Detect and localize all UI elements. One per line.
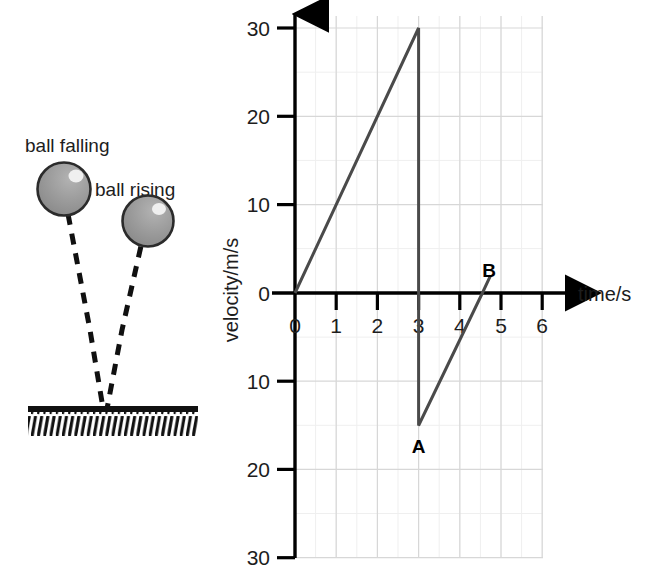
y-tick-label-30: 30 (247, 17, 270, 40)
x-tick-label-0: 0 (289, 314, 301, 337)
velocity-data-line (295, 28, 491, 426)
rising-ball (123, 196, 174, 247)
velocity-time-graph: 30 20 10 0 10 20 30 0 1 2 3 4 5 6 time/s… (220, 14, 631, 569)
ball-rising-label: ball rising (95, 179, 175, 200)
y-tick-label-neg-20: 20 (247, 458, 270, 481)
y-tick-label-20: 20 (247, 105, 270, 128)
annotation-label-a: A (412, 436, 426, 457)
figure-canvas: ball falling ball rising (0, 0, 645, 581)
falling-trajectory-dashed-line (68, 214, 104, 414)
annotation-label-b: B (482, 260, 496, 281)
ball-falling-label: ball falling (25, 135, 110, 156)
y-axis-title: velocity/m/s (220, 238, 242, 342)
x-tick-label-6: 6 (536, 314, 548, 337)
rising-trajectory-dashed-line (106, 246, 141, 414)
x-tick-label-1: 1 (330, 314, 342, 337)
x-tick-label-2: 2 (372, 314, 384, 337)
y-tick-label-neg-30: 30 (247, 546, 270, 569)
ground-surface (28, 406, 198, 436)
x-tick-label-5: 5 (495, 314, 507, 337)
falling-ball (38, 163, 91, 216)
y-tick-label-neg-10: 10 (247, 370, 270, 393)
ball-bounce-illustration: ball falling ball rising (25, 135, 198, 436)
y-tick-label-0: 0 (258, 282, 270, 305)
x-axis-title: time/s (578, 283, 631, 305)
figure-svg: ball falling ball rising (0, 0, 645, 581)
y-tick-label-10: 10 (247, 193, 270, 216)
